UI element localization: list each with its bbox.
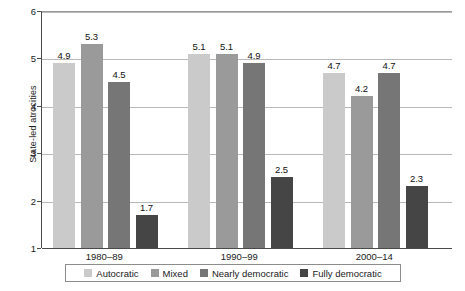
y-tick-label: 1 [6,243,36,254]
y-axis-ticks: 123456 [0,11,36,248]
bar-value-label: 4.9 [247,50,260,61]
bar: 1.7 [136,215,158,248]
bar: 4.7 [378,73,400,248]
gridline [42,12,452,13]
y-tick-label: 3 [6,148,36,159]
bar-value-label: 2.5 [275,164,288,175]
legend-item: Autocratic [84,268,138,279]
legend-label: Mixed [163,268,188,279]
bar: 4.9 [53,63,75,248]
legend-item: Mixed [151,268,188,279]
legend-label: Fully democratic [312,268,381,279]
bar-chart: State-led atrocities 123456 4.95.34.51.7… [0,0,465,291]
bar: 4.7 [323,73,345,248]
legend-label: Nearly democratic [212,268,289,279]
bar-value-label: 4.7 [327,60,340,71]
bar: 2.5 [271,177,293,248]
y-tick-label: 5 [6,53,36,64]
bar: 4.9 [243,63,265,248]
bar-value-label: 4.7 [382,60,395,71]
bar: 2.3 [406,186,428,248]
bar: 5.1 [188,54,210,248]
legend-item: Fully democratic [300,268,381,279]
bar-value-label: 5.1 [192,41,205,52]
bar-value-label: 4.2 [355,83,368,94]
bar: 5.3 [81,44,103,248]
legend-label: Autocratic [96,268,138,279]
y-tick-label: 6 [6,6,36,17]
bar-value-label: 1.7 [140,202,153,213]
legend-swatch-icon [84,269,92,277]
legend-swatch-icon [300,269,308,277]
plot-area: 4.95.34.51.75.15.14.92.54.74.24.72.3 [41,11,452,248]
chart-legend: AutocraticMixedNearly democraticFully de… [65,264,401,282]
bar-value-label: 2.3 [410,173,423,184]
x-axis-group-label: 1990–99 [221,251,258,262]
y-tick-label: 4 [6,100,36,111]
legend-swatch-icon [151,269,159,277]
bar-value-label: 4.9 [57,50,70,61]
bar-value-label: 4.5 [112,69,125,80]
bar: 4.5 [108,82,130,248]
bar-value-label: 5.3 [85,31,98,42]
y-tick-label: 2 [6,195,36,206]
legend-item: Nearly democratic [200,268,289,279]
bar: 4.2 [351,96,373,248]
bar: 5.1 [216,54,238,248]
legend-swatch-icon [200,269,208,277]
y-tick-mark [37,248,41,249]
bar-value-label: 5.1 [220,41,233,52]
x-axis-group-label: 2000–14 [356,251,393,262]
x-axis-group-label: 1980–89 [86,251,123,262]
